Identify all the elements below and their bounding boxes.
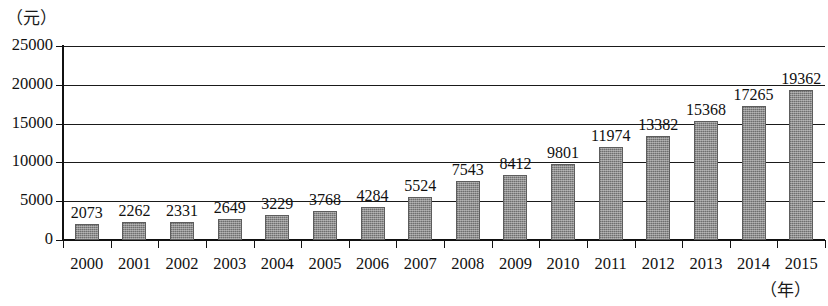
- y-axis-tick-label: 10000: [12, 153, 53, 170]
- y-axis-tick-label: 0: [45, 231, 53, 248]
- x-axis-category-label: 2015: [773, 255, 828, 272]
- y-axis-tick-label: 15000: [12, 115, 53, 132]
- x-axis-tick: [254, 240, 255, 248]
- bar: [456, 181, 480, 240]
- bar-value-label: 13382: [629, 117, 689, 133]
- x-axis-tick: [492, 240, 493, 248]
- y-axis-unit-label: （元）: [6, 4, 57, 29]
- x-axis-tick: [825, 240, 826, 248]
- y-axis-tick-label: 25000: [12, 37, 53, 54]
- y-axis-tick-label: 20000: [12, 76, 53, 93]
- bar: [265, 215, 289, 240]
- bar: [313, 211, 337, 240]
- x-axis-unit-label: （年）: [760, 276, 811, 301]
- gridline: [63, 46, 825, 47]
- x-axis-tick: [444, 240, 445, 248]
- x-axis-tick: [301, 240, 302, 248]
- x-axis-tick: [206, 240, 207, 248]
- bar: [122, 222, 146, 240]
- bar: [503, 175, 527, 240]
- x-axis-tick: [682, 240, 683, 248]
- x-axis-tick: [539, 240, 540, 248]
- x-axis-tick: [777, 240, 778, 248]
- x-axis-tick: [63, 240, 64, 248]
- y-axis-tick-label: 5000: [20, 192, 53, 209]
- x-axis-tick: [349, 240, 350, 248]
- bar: [694, 121, 718, 240]
- x-axis-tick: [396, 240, 397, 248]
- bar-value-label: 5524: [390, 178, 450, 194]
- bar-value-label: 19362: [771, 71, 828, 87]
- bar: [75, 224, 99, 240]
- x-axis-tick: [635, 240, 636, 248]
- gridline: [63, 85, 825, 86]
- bar: [408, 197, 432, 240]
- bar: [646, 136, 670, 240]
- bar: [170, 222, 194, 240]
- bar: [361, 207, 385, 240]
- x-axis-tick: [730, 240, 731, 248]
- bar-value-label: 9801: [533, 145, 593, 161]
- bar: [218, 219, 242, 240]
- x-axis-tick: [158, 240, 159, 248]
- bar-value-label: 15368: [676, 102, 736, 118]
- bar: [789, 90, 813, 240]
- bar-value-label: 17265: [724, 87, 784, 103]
- bar: [551, 164, 575, 240]
- x-axis-tick: [111, 240, 112, 248]
- x-axis-tick: [587, 240, 588, 248]
- bar: [742, 106, 766, 240]
- bar: [599, 147, 623, 240]
- bar-chart: （元） （年） 0500010000150002000025000 207322…: [0, 0, 828, 306]
